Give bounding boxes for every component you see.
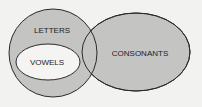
vowels-label: VOWELS bbox=[30, 58, 64, 67]
venn-diagram: LETTERS VOWELS CONSONANTS bbox=[0, 0, 202, 107]
consonants-label: CONSONANTS bbox=[112, 49, 168, 58]
letters-label: LETTERS bbox=[34, 26, 70, 35]
